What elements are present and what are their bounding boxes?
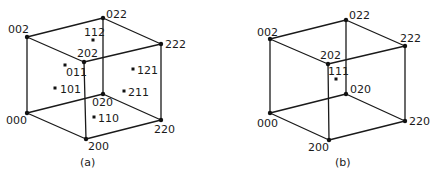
- edge-220-020: [346, 94, 405, 121]
- label-222: 222: [165, 38, 186, 51]
- label-011: 011: [66, 66, 87, 79]
- label-200: 200: [308, 141, 329, 154]
- panel-b-vertex-labels: 000 200 020 220 002 202 022 222: [257, 9, 430, 154]
- label-112: 112: [84, 26, 105, 39]
- label-111: 111: [328, 65, 349, 78]
- vertex-022: [101, 16, 105, 20]
- label-110: 110: [98, 112, 119, 125]
- label-202: 202: [77, 47, 98, 60]
- vertex-220: [403, 119, 407, 123]
- vertex-020: [344, 92, 348, 96]
- edge-002-202: [27, 37, 84, 62]
- edge-200-220: [329, 121, 405, 140]
- label-020: 020: [350, 83, 371, 96]
- label-220: 220: [409, 115, 430, 128]
- caption-a: (a): [80, 156, 95, 169]
- panel-a: 000 200 020 220 002 202 022 222 112 011 …: [6, 8, 186, 169]
- label-222: 222: [400, 32, 421, 45]
- caption-b: (b): [335, 156, 351, 169]
- edge-000-200: [27, 113, 86, 139]
- vertex-222: [159, 42, 163, 46]
- label-000: 000: [6, 114, 27, 127]
- label-020: 020: [92, 96, 113, 109]
- label-022: 022: [106, 8, 127, 21]
- point-101: [54, 87, 57, 90]
- edge-222-022: [346, 20, 405, 46]
- label-002: 002: [257, 26, 278, 39]
- label-000: 000: [257, 117, 278, 130]
- label-202: 202: [320, 49, 341, 62]
- point-121: [132, 68, 135, 71]
- cube-lattice-figure: 000 200 020 220 002 202 022 222 112 011 …: [0, 0, 441, 178]
- label-200: 200: [88, 140, 109, 153]
- point-110: [93, 116, 96, 119]
- point-211: [123, 90, 126, 93]
- edge-222-022: [103, 18, 161, 44]
- edge-000-200: [270, 113, 329, 140]
- vertex-000: [268, 111, 272, 115]
- label-211: 211: [128, 86, 149, 99]
- label-002: 002: [8, 23, 29, 36]
- vertex-202: [82, 60, 86, 64]
- panel-b: 000 200 020 220 002 202 022 222 111 (b): [257, 9, 430, 169]
- panel-a-interior-points: 112 011 101 121 211 110: [54, 26, 159, 125]
- edge-022-002: [270, 20, 346, 39]
- label-022: 022: [349, 9, 370, 22]
- label-220: 220: [154, 123, 175, 136]
- edge-020-000: [270, 94, 346, 113]
- label-121: 121: [137, 64, 158, 77]
- vertex-022: [344, 18, 348, 22]
- label-101: 101: [60, 83, 81, 96]
- vertex-220: [159, 118, 163, 122]
